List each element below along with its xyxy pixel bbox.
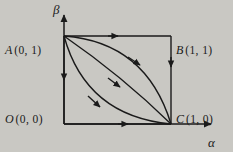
path-upper-curve — [64, 36, 171, 124]
point-coords-A: (0, 1) — [14, 44, 41, 56]
figure-diagram: A(0, 1) B(1, 1) O(0, 0) C(1, 0) β α — [0, 0, 233, 152]
diagram-canvas — [0, 0, 233, 152]
path-lower-curve — [64, 36, 171, 124]
point-coords-B: (1, 1) — [185, 44, 212, 56]
point-name-A: A — [5, 43, 14, 57]
path-middle-curve — [64, 36, 171, 124]
point-coords-O: (0, 0) — [16, 113, 43, 125]
point-coords-C: (1, 0) — [186, 113, 213, 125]
point-label-O: O(0, 0) — [5, 113, 43, 126]
alpha-axis-label: α — [208, 136, 215, 149]
arrow-middle-curve — [108, 78, 120, 87]
point-label-A: A(0, 1) — [5, 44, 42, 57]
point-name-O: O — [5, 112, 16, 126]
point-name-C: C — [176, 112, 186, 126]
point-label-C: C(1, 0) — [176, 113, 213, 126]
point-label-B: B(1, 1) — [176, 44, 213, 57]
beta-axis-label: β — [53, 3, 59, 16]
arrow-lower-curve — [88, 96, 100, 107]
point-name-B: B — [176, 43, 185, 57]
